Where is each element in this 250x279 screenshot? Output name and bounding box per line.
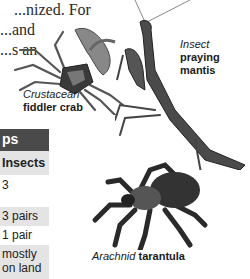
- table-row: mostly on land: [0, 245, 49, 279]
- mantis-name-label: praying: [180, 51, 220, 64]
- tarantula-illustration: [80, 150, 230, 250]
- table-row: 3 pairs: [0, 207, 49, 226]
- mantis-caption: Insect praying mantis: [180, 38, 220, 77]
- mantis-group-label: Insect: [180, 38, 220, 51]
- table-cell: mostly: [2, 247, 49, 261]
- table-title: ps: [0, 129, 49, 151]
- tarantula-name-label: tarantula: [138, 250, 184, 262]
- table-column-header: Insects: [0, 151, 49, 175]
- comparison-table: Insects 3 3 pairs 1 pair mostly on land: [0, 151, 49, 279]
- praying-mantis-illustration: [115, 0, 250, 170]
- table-cell: on land: [2, 261, 49, 275]
- mantis-name-label: mantis: [180, 64, 220, 77]
- table-cell: 1 pair: [2, 228, 32, 242]
- crab-caption: Crustacean fiddler crab: [23, 88, 83, 114]
- tarantula-group-label: Arachnid: [92, 250, 135, 262]
- table-row: 1 pair: [0, 226, 49, 245]
- table-row: 3: [0, 175, 49, 207]
- crab-group-label: Crustacean: [23, 88, 83, 101]
- crab-name-label: fiddler crab: [23, 101, 83, 114]
- table-cell: 3 pairs: [2, 209, 38, 223]
- table-cell: 3: [2, 178, 9, 192]
- tarantula-caption: Arachnid tarantula: [92, 250, 185, 263]
- body-text-line: ...nized. For: [14, 0, 91, 20]
